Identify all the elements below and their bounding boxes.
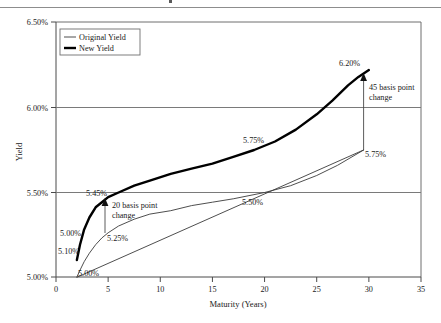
x-axis-ticks xyxy=(56,277,421,282)
point-label-new-510: 5.10% xyxy=(58,247,79,256)
x-tick-label-30: 30 xyxy=(365,285,373,294)
y-axis-title: Yield xyxy=(14,142,24,161)
x-tick-label-25: 25 xyxy=(313,285,321,294)
y-tick-label-500: 5.00% xyxy=(27,273,48,282)
y-axis-ticks xyxy=(51,22,56,277)
annotation-right-line2: change xyxy=(369,93,393,102)
y-tick-label-650: 6.50% xyxy=(27,18,48,27)
point-label-orig-525: 5.25% xyxy=(107,234,128,243)
chart-legend: Original Yield New Yield xyxy=(60,29,140,55)
y-tick-label-600: 6.00% xyxy=(27,104,48,113)
annotation-left-line2: change xyxy=(112,211,136,220)
series-new-yield xyxy=(77,70,369,260)
x-tick-label-10: 10 xyxy=(156,285,164,294)
x-tick-label-20: 20 xyxy=(260,285,268,294)
point-label-orig-550: 5.50% xyxy=(242,198,263,207)
y-tick-label-550: 5.50% xyxy=(27,189,48,198)
point-label-orig-575: 5.75% xyxy=(365,150,386,159)
annotation-arrow-right xyxy=(360,73,367,150)
point-label-orig-500: 5.00% xyxy=(78,269,99,278)
x-tick-label-5: 5 xyxy=(106,285,110,294)
legend-label-original-yield: Original Yield xyxy=(79,33,126,42)
yield-curve-figure: 5.00% 5.50% 6.00% 6.50% 0 5 10 15 20 25 … xyxy=(0,0,441,323)
x-axis-title: Maturity (Years) xyxy=(209,299,266,309)
point-label-new-500: 5.00% xyxy=(60,229,81,238)
annotation-left-line1: 20 basis point xyxy=(112,201,158,210)
x-tick-label-15: 15 xyxy=(208,285,216,294)
point-label-new-620: 6.20% xyxy=(339,59,360,68)
point-label-new-545: 5.45% xyxy=(86,189,107,198)
annotation-right-line1: 45 basis point xyxy=(369,83,415,92)
legend-label-new-yield: New Yield xyxy=(79,44,114,53)
chart-canvas: 5.00% 5.50% 6.00% 6.50% 0 5 10 15 20 25 … xyxy=(0,0,441,323)
annotation-arrow-left xyxy=(102,198,109,233)
x-tick-label-0: 0 xyxy=(54,285,58,294)
x-tick-label-35: 35 xyxy=(417,285,425,294)
point-label-new-575: 5.75% xyxy=(243,136,264,145)
